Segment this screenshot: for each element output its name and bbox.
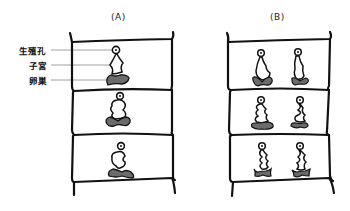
panel-a-segment-3-organs [109, 143, 134, 178]
panel-b-segment-1-organs [253, 49, 308, 86]
panel-a-segment-1-organs [107, 46, 129, 85]
ovary-icon [254, 169, 271, 176]
uterus-icon [260, 150, 268, 169]
ovary-icon [251, 122, 273, 129]
ovary-icon [107, 75, 129, 85]
uterus-icon [110, 54, 123, 74]
panel-b-body [227, 32, 334, 196]
diagram-drawing [0, 0, 350, 211]
uterus-icon [255, 104, 268, 123]
leader-lines [51, 50, 113, 80]
uterus-icon [112, 152, 125, 169]
uterus-icon [256, 57, 270, 80]
ovary-icon [291, 123, 308, 128]
panel-a-segment-2-organs [106, 93, 130, 127]
uterus-icon [111, 100, 126, 119]
proglottid-diagram: (A) (B) 生殖孔 子宮 卵巣 [0, 0, 350, 211]
uterus-icon [294, 56, 304, 79]
ovary-icon [109, 169, 134, 178]
panel-b-segment-2-organs [251, 97, 308, 130]
panel-b-segment-3-organs [254, 143, 310, 177]
uterus-icon [297, 150, 306, 170]
uterus-icon [295, 104, 305, 122]
